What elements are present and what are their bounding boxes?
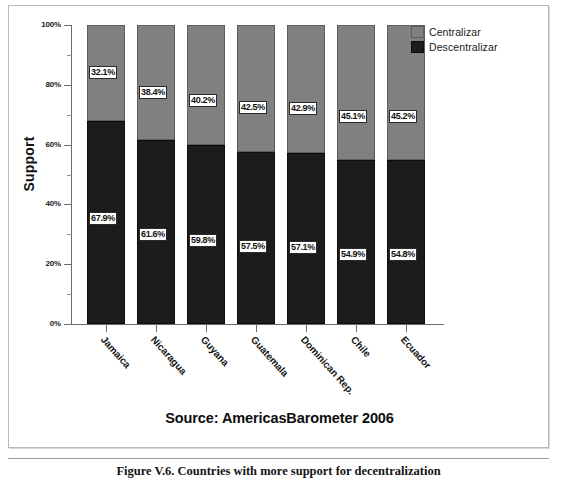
y-tick-label: 60%	[13, 140, 61, 149]
bar-segment-descentralizar[interactable]	[387, 160, 425, 324]
x-category-label: Guatemala	[249, 334, 291, 379]
bar-column[interactable]	[387, 25, 425, 324]
bar-segment-descentralizar[interactable]	[237, 152, 275, 324]
bar-column[interactable]	[137, 25, 175, 324]
figure-page: Support 0%20%40%60%80%100% 32.1%67.9%38.…	[0, 0, 561, 482]
y-tick-label: 40%	[13, 199, 61, 208]
y-tick-label-wrap: 20%	[9, 264, 61, 274]
y-tick-major	[64, 204, 72, 205]
bar-segment-centralizar[interactable]	[187, 25, 225, 145]
figure-frame: Support 0%20%40%60%80%100% 32.1%67.9%38.…	[8, 5, 549, 448]
bar-value-label-descentralizar: 54.8%	[389, 248, 417, 261]
chart-legend: CentralizarDescentralizar	[411, 26, 498, 56]
y-tick-major	[64, 264, 72, 265]
y-tick-label: 80%	[13, 80, 61, 89]
y-tick-major	[64, 25, 72, 26]
y-tick-minor	[67, 234, 72, 235]
y-tick-minor	[67, 294, 72, 295]
bar-column[interactable]	[337, 25, 375, 324]
bar-value-label-descentralizar: 59.8%	[189, 234, 217, 247]
x-axis-line	[71, 324, 444, 325]
bar-column[interactable]	[187, 25, 225, 324]
bar-value-label-centralizar: 32.1%	[89, 66, 117, 79]
source-note: Source: AmericasBarometer 2006	[9, 410, 550, 426]
x-tick	[106, 325, 107, 332]
legend-item[interactable]: Descentralizar	[411, 41, 498, 53]
bar-column[interactable]	[287, 25, 325, 324]
bar-value-label-centralizar: 42.9%	[289, 102, 317, 115]
x-tick	[356, 325, 357, 332]
y-tick-label: 20%	[13, 259, 61, 268]
y-tick-label-wrap: 0%	[9, 324, 61, 334]
y-tick-label: 100%	[13, 20, 61, 29]
bar-value-label-centralizar: 40.2%	[189, 94, 217, 107]
x-tick	[306, 325, 307, 332]
caption-rule	[8, 458, 549, 459]
bar-segment-descentralizar[interactable]	[287, 153, 325, 324]
legend-swatch-descentralizar	[411, 41, 424, 53]
y-tick-major	[64, 145, 72, 146]
bar-value-label-descentralizar: 67.9%	[89, 212, 117, 225]
figure-caption: Figure V.6. Countries with more support …	[8, 464, 549, 482]
y-tick-minor	[67, 55, 72, 56]
bar-value-label-centralizar: 45.1%	[339, 110, 367, 123]
bar-segment-centralizar[interactable]	[337, 25, 375, 160]
y-tick-minor	[67, 115, 72, 116]
x-category-label: Guyana	[199, 334, 231, 368]
bar-value-label-centralizar: 38.4%	[139, 86, 167, 99]
bar-segment-centralizar[interactable]	[287, 25, 325, 153]
bar-value-label-descentralizar: 61.6%	[139, 228, 167, 241]
x-category-label: Ecuador	[399, 334, 433, 371]
bar-segment-centralizar[interactable]	[137, 25, 175, 140]
x-tick	[256, 325, 257, 332]
plot-area: Support 0%20%40%60%80%100% 32.1%67.9%38.…	[9, 6, 550, 449]
bar-segment-descentralizar[interactable]	[337, 160, 375, 324]
x-category-label: Dominican Rep.	[299, 334, 357, 396]
legend-label: Centralizar	[429, 26, 481, 38]
y-tick-label-wrap: 60%	[9, 145, 61, 155]
y-tick-label-wrap: 40%	[9, 204, 61, 214]
x-category-label: Jamaica	[99, 334, 133, 370]
bar-segment-centralizar[interactable]	[237, 25, 275, 152]
legend-item[interactable]: Centralizar	[411, 26, 498, 38]
x-category-label: Nicaragua	[149, 334, 189, 377]
x-tick	[206, 325, 207, 332]
bar-value-label-descentralizar: 57.1%	[289, 241, 317, 254]
bar-value-label-centralizar: 42.5%	[239, 101, 267, 114]
legend-swatch-centralizar	[411, 26, 424, 38]
bar-column[interactable]	[237, 25, 275, 324]
bar-value-label-descentralizar: 57.5%	[239, 240, 267, 253]
bar-value-label-descentralizar: 54.9%	[339, 248, 367, 261]
bar-value-label-centralizar: 45.2%	[389, 110, 417, 123]
y-tick-major	[64, 85, 72, 86]
y-tick-label-wrap: 100%	[9, 25, 61, 35]
legend-label: Descentralizar	[429, 41, 498, 53]
y-tick-major	[64, 324, 72, 325]
y-tick-minor	[67, 175, 72, 176]
x-tick	[156, 325, 157, 332]
x-category-label: Chile	[349, 334, 373, 359]
x-tick	[406, 325, 407, 332]
y-tick-label-wrap: 80%	[9, 85, 61, 95]
y-tick-label: 0%	[13, 319, 61, 328]
